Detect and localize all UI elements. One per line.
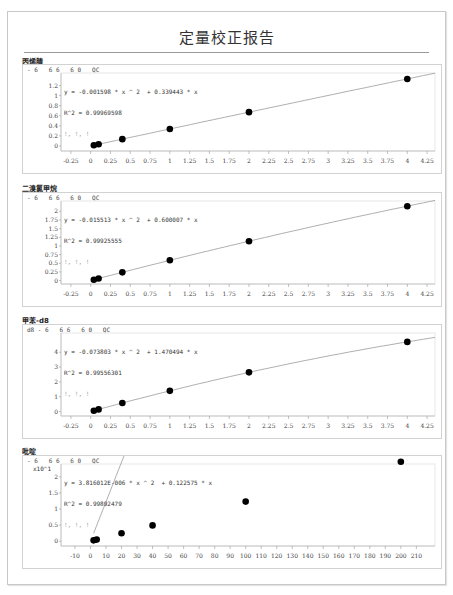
data-point — [242, 498, 249, 505]
x-tick-label: 1.75 — [223, 422, 237, 429]
y-tick-label: 1 — [54, 242, 58, 249]
y-tick-label: 1.2 — [48, 82, 58, 89]
x-tick-label: 10 — [102, 552, 110, 559]
x-tick-label: 60 — [180, 552, 188, 559]
y-tick-label: 2 — [54, 378, 58, 385]
x-tick-label: 2.75 — [302, 157, 316, 164]
y-tick-label: 1.5 — [48, 489, 58, 496]
calibration-chart-dibromochloromethane: - 6 6 6 6 0 QC 00.250.50.7511.251.51.752… — [22, 192, 442, 307]
x-tick-label: 1.25 — [183, 157, 197, 164]
x-tick-label: 20 — [118, 552, 126, 559]
y-tick-label: 0 — [54, 142, 58, 149]
y-tick-label: 0 — [54, 408, 58, 415]
x-tick-label: 1.5 — [205, 157, 215, 164]
x-tick-label: 1.5 — [205, 422, 215, 429]
y-tick-label: 1 — [54, 505, 58, 512]
calibration-chart-acrylonitrile: - 6 6 6 6 0 QC 00.20.40.60.811.2-0.2500.… — [22, 64, 442, 174]
y-tick-label: 0.5 — [48, 259, 58, 266]
x-tick-label: -0.25 — [63, 422, 79, 429]
y-tick-label: 1.25 — [45, 233, 59, 240]
x-tick-label: 1.75 — [223, 157, 237, 164]
x-tick-label: 140 — [302, 552, 314, 559]
x-tick-label: 0.25 — [104, 422, 118, 429]
y-tick-label: 2 — [54, 207, 58, 214]
x-tick-label: -10 — [70, 552, 80, 559]
x-tick-label: 180 — [364, 552, 376, 559]
y-tick-label: 4 — [54, 348, 58, 355]
fit-equation: y = -0.073803 * x ^ 2 + 1.470494 * x — [64, 348, 198, 355]
x-tick-label: 2.25 — [262, 290, 276, 297]
x-tick-label: 2.25 — [262, 157, 276, 164]
x-tick-label: 3.25 — [341, 157, 355, 164]
x-tick-label: 3.5 — [363, 157, 373, 164]
x-tick-label: 4.25 — [420, 422, 434, 429]
x-tick-label: 0.75 — [143, 422, 157, 429]
title-divider — [24, 52, 429, 53]
y-tick-label: 1 — [54, 92, 58, 99]
x-tick-label: 2.5 — [284, 290, 294, 297]
x-tick-label: 1.25 — [183, 290, 197, 297]
x-tick-label: 0.5 — [125, 157, 135, 164]
equation-extra: !, !, ! — [64, 390, 198, 397]
x-tick-label: 200 — [395, 552, 407, 559]
x-tick-label: 1 — [168, 422, 172, 429]
x-tick-label: 3.25 — [341, 290, 355, 297]
x-tick-label: 90 — [226, 552, 234, 559]
x-tick-label: 2 — [247, 422, 251, 429]
y-tick-label: 3 — [54, 363, 58, 370]
x-tick-label: 190 — [380, 552, 392, 559]
x-tick-label: 170 — [349, 552, 361, 559]
equation-extra: !, !, ! — [64, 130, 198, 137]
x-tick-label: -0.25 — [63, 157, 79, 164]
x-tick-label: 1.75 — [223, 290, 237, 297]
y-tick-label: 0.8 — [48, 102, 58, 109]
y-tick-label: 0.75 — [45, 251, 59, 258]
x-tick-label: 0 — [89, 290, 93, 297]
calibration-chart-toluene-d8: d8 - 6 6 6 6 0 QC 01234-0.2500.250.50.75… — [22, 324, 442, 439]
fit-equation: y = -0.015513 * x ^ 2 + 0.600007 * x — [64, 216, 198, 223]
fit-equation: y = 3.816012E-006 * x ^ 2 + 0.122575 * x — [64, 479, 212, 486]
y-tick-label: 0 — [54, 537, 58, 544]
x-tick-label: 0.75 — [143, 290, 157, 297]
x-tick-label: 4 — [405, 290, 409, 297]
x-tick-label: 2 — [247, 157, 251, 164]
y-tick-label: 0.2 — [48, 132, 58, 139]
x-tick-label: 0.25 — [104, 290, 118, 297]
x-tick-label: 0.25 — [104, 157, 118, 164]
x-tick-label: -0.25 — [63, 290, 79, 297]
x-tick-label: 2.25 — [262, 422, 276, 429]
x-tick-label: 80 — [211, 552, 219, 559]
x-tick-label: 130 — [287, 552, 299, 559]
r-squared: R^2 = 0.99925555 — [64, 237, 198, 244]
x-tick-label: 0 — [89, 157, 93, 164]
x-tick-label: 4.25 — [420, 290, 434, 297]
x-tick-label: 50 — [164, 552, 172, 559]
data-point — [246, 109, 253, 116]
x-tick-label: 2.75 — [302, 422, 316, 429]
x-tick-label: 2.75 — [302, 290, 316, 297]
x-tick-label: 1.5 — [205, 290, 215, 297]
equation-extra: !, !, ! — [64, 521, 212, 528]
x-tick-label: 4 — [405, 422, 409, 429]
data-point — [404, 203, 411, 210]
data-point — [404, 339, 411, 346]
x-tick-label: 120 — [271, 552, 283, 559]
x-tick-label: 0.5 — [125, 290, 135, 297]
report-title: 定量校正报告 — [8, 26, 445, 47]
y-axis-multiplier: x10^1 — [33, 465, 51, 472]
x-tick-label: 1 — [168, 157, 172, 164]
x-tick-label: 160 — [333, 552, 345, 559]
x-tick-label: 30 — [133, 552, 141, 559]
y-tick-label: 0 — [54, 277, 58, 284]
x-tick-label: 210 — [411, 552, 423, 559]
x-tick-label: 3.25 — [341, 422, 355, 429]
x-tick-label: 0.5 — [125, 422, 135, 429]
x-tick-label: 3.75 — [381, 422, 395, 429]
y-tick-label: 0.25 — [45, 268, 59, 275]
x-tick-label: 2.5 — [284, 422, 294, 429]
x-tick-label: 3 — [326, 290, 330, 297]
x-tick-label: 0.75 — [143, 157, 157, 164]
fit-equation-block: y = -0.001598 * x ^ 2 + 0.339443 * x R^2… — [64, 74, 198, 151]
x-tick-label: 3.75 — [381, 157, 395, 164]
x-tick-label: 110 — [255, 552, 267, 559]
